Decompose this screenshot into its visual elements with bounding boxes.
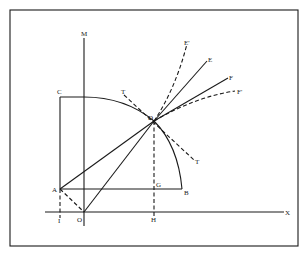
label-i: I (58, 217, 61, 225)
curve-de-prime-dashed (154, 44, 187, 121)
label-g: G (156, 181, 161, 189)
curve-df-prime-dashed (154, 91, 235, 121)
label-a: A (52, 186, 57, 194)
line-ao-dashed (60, 189, 84, 212)
line-od (84, 121, 154, 212)
ray-de (154, 61, 207, 121)
label-c: C (57, 88, 62, 96)
ray-df (154, 78, 228, 121)
diagram-canvas: M C T D E' E F F' T A G B I O H X (0, 0, 306, 254)
label-f: F (229, 74, 233, 82)
label-b: B (184, 189, 189, 197)
label-m: M (81, 30, 88, 38)
label-t-lower: T (195, 158, 200, 166)
label-h: H (151, 216, 156, 224)
label-d: D (148, 114, 153, 122)
label-e-prime: E' (184, 39, 190, 47)
label-t-upper: T (121, 88, 126, 96)
label-f-prime: F' (237, 88, 242, 96)
line-ad (60, 121, 154, 189)
label-x: X (285, 209, 290, 217)
label-o: O (77, 216, 82, 224)
label-e: E (208, 56, 212, 64)
tangent-tt-dashed (124, 95, 194, 160)
